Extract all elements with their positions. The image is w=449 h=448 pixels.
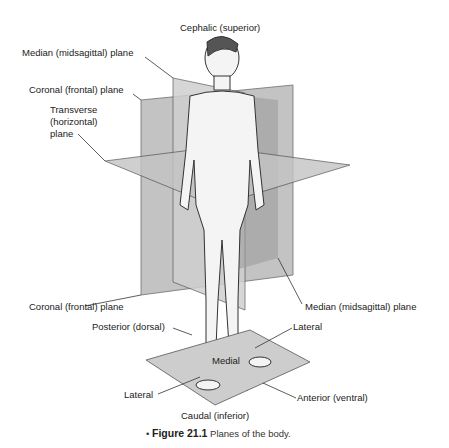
label-coronal-bottom: Coronal (frontal) plane xyxy=(29,301,124,312)
label-posterior: Posterior (dorsal) xyxy=(92,321,165,332)
label-caudal: Caudal (inferior) xyxy=(181,410,249,421)
floor-plane xyxy=(146,330,310,405)
label-transverse-1: Transverse xyxy=(50,104,97,115)
label-transverse-2: (horizontal) xyxy=(50,116,98,127)
label-lateral-right: Lateral xyxy=(293,321,322,332)
label-median-top: Median (midsagittal) plane xyxy=(22,47,133,58)
label-anterior: Anterior (ventral) xyxy=(297,392,368,403)
label-cephalic: Cephalic (superior) xyxy=(180,22,260,33)
label-lateral-left: Lateral xyxy=(124,389,153,400)
figure-planes-of-body: Cephalic (superior) Median (midsagittal)… xyxy=(0,0,449,448)
caption-number: Figure 21.1 xyxy=(152,427,207,439)
body-planes-illustration xyxy=(0,0,449,448)
caption-bullet: • xyxy=(146,428,149,439)
label-medial: Medial xyxy=(212,355,240,366)
caption-text: Planes of the body. xyxy=(210,428,291,439)
label-coronal-top: Coronal (frontal) plane xyxy=(29,84,124,95)
figure-caption: • Figure 21.1 Planes of the body. xyxy=(146,427,291,439)
label-median-bottom: Median (midsagittal) plane xyxy=(305,301,416,312)
label-transverse-3: plane xyxy=(50,128,73,139)
